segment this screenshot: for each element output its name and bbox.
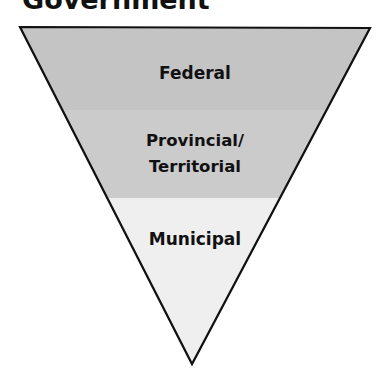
federal-label: Federal [95,63,295,83]
provincial-territorial-label: Provincial/ Territorial [95,128,295,180]
provincial-label-line2: Territorial [95,154,295,180]
provincial-label-line1: Provincial/ [95,128,295,154]
municipal-label: Municipal [95,229,295,249]
inverted-triangle-diagram [0,0,391,390]
municipal-band [0,198,391,368]
